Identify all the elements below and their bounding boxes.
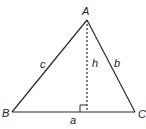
side-c — [12, 20, 87, 112]
right-angle-marker — [80, 105, 87, 112]
side-label-a: a — [70, 114, 76, 126]
altitude-label-h: h — [92, 57, 98, 69]
vertex-label-b: B — [2, 107, 9, 119]
side-label-c: c — [40, 58, 46, 70]
triangle-diagram: A B C a b c h — [0, 0, 146, 129]
vertex-label-c: C — [138, 108, 146, 120]
side-label-b: b — [114, 57, 120, 69]
vertex-label-a: A — [81, 5, 89, 17]
